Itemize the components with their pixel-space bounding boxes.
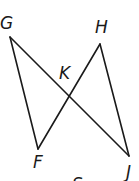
segment-fh <box>38 44 100 149</box>
segment-hj <box>100 44 129 156</box>
label-g: G <box>0 13 13 33</box>
geometry-diagram: G H K F J S <box>0 0 139 181</box>
label-partial-bottom: S <box>72 174 83 181</box>
label-h: H <box>95 17 108 37</box>
segment-gf <box>10 37 38 149</box>
label-k: K <box>59 63 72 83</box>
label-j: J <box>123 162 131 181</box>
label-f: F <box>33 152 43 172</box>
